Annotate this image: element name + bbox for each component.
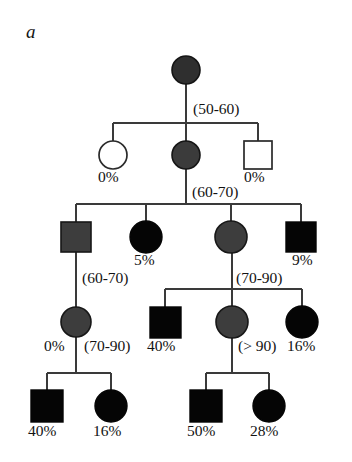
individual-IV-2[interactable] [150,307,181,338]
percent-label-V-3: 50% [187,423,215,439]
individual-V-1[interactable] [31,390,63,422]
percent-label-V-4: 28% [250,423,278,439]
individual-III-2[interactable] [130,221,162,253]
age-label-III-1: (60-70) [82,270,129,286]
pedigree-figure: a [0,0,352,462]
percent-label-II-1: 0% [98,169,119,185]
percent-label-IV-1: 0% [44,338,65,354]
percent-label-III-4: 9% [292,252,313,268]
individual-V-2[interactable] [95,390,127,422]
individual-IV-1[interactable] [61,307,91,337]
individual-II-1[interactable] [99,141,127,169]
age-label-IV-3: (> 90) [238,338,276,354]
individual-IV-4[interactable] [286,306,318,338]
individual-III-4[interactable] [286,222,316,252]
individual-III-1[interactable] [61,222,91,252]
individual-III-3[interactable] [215,221,247,253]
individual-II-2[interactable] [172,141,200,169]
individual-IV-3[interactable] [216,306,248,338]
pedigree-diagram [0,0,352,462]
individual-I-1[interactable] [172,56,200,84]
age-label-IV-1: (70-90) [84,338,131,354]
individual-symbols [31,56,318,422]
percent-label-III-2: 5% [134,252,155,268]
age-label-III-3: (70-90) [236,270,283,286]
individual-V-4[interactable] [253,390,285,422]
percent-label-IV-4: 16% [287,338,315,354]
percent-label-IV-2: 40% [147,338,175,354]
percent-label-II-3: 0% [244,169,265,185]
individual-II-3[interactable] [244,141,272,169]
percent-label-V-2: 16% [93,423,121,439]
age-label-II-2: (60-70) [192,184,239,200]
percent-label-V-1: 40% [28,423,56,439]
age-label-I-1: (50-60) [193,101,240,117]
individual-V-3[interactable] [190,390,222,422]
